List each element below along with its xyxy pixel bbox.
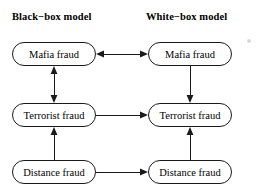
edge-mafia-bidirectional	[96, 48, 148, 60]
node-label: Distance fraud	[159, 167, 221, 178]
arrowhead-down	[51, 95, 58, 103]
edge-terrorist-cross	[96, 109, 148, 121]
column-title-white-box: White−box model	[146, 11, 227, 22]
diagram-canvas: Black−box model White−box model Mafia	[0, 0, 261, 189]
edge-distance-cross	[96, 166, 148, 178]
node-label: Mafia fraud	[165, 49, 215, 60]
edge-bb-distance-terrorist	[48, 127, 60, 160]
node-black-box-mafia-fraud: Mafia fraud	[12, 42, 96, 66]
arrowhead-right	[140, 169, 148, 176]
node-label: Terrorist fraud	[24, 110, 85, 121]
arrowhead-down	[187, 95, 194, 103]
arrowhead-up	[51, 66, 58, 74]
edge-wb-mafia-terrorist	[184, 66, 196, 103]
node-white-box-terrorist-fraud: Terrorist fraud	[148, 103, 232, 127]
arrowhead-right	[140, 112, 148, 119]
arrowhead-left	[96, 51, 104, 58]
node-label: Terrorist fraud	[160, 110, 221, 121]
node-white-box-mafia-fraud: Mafia fraud	[148, 42, 232, 66]
node-black-box-terrorist-fraud: Terrorist fraud	[12, 103, 96, 127]
column-title-black-box: Black−box model	[12, 11, 92, 22]
arrowhead-up	[187, 127, 194, 135]
arrowhead-right	[140, 51, 148, 58]
node-black-box-distance-fraud: Distance fraud	[12, 160, 96, 184]
edge-wb-distance-terrorist	[184, 127, 196, 160]
scan-speck-artifact	[247, 39, 251, 43]
node-white-box-distance-fraud: Distance fraud	[148, 160, 232, 184]
node-label: Mafia fraud	[29, 49, 79, 60]
edge-bb-mafia-terrorist	[48, 66, 60, 103]
arrowhead-up	[51, 127, 58, 135]
node-label: Distance fraud	[23, 167, 85, 178]
